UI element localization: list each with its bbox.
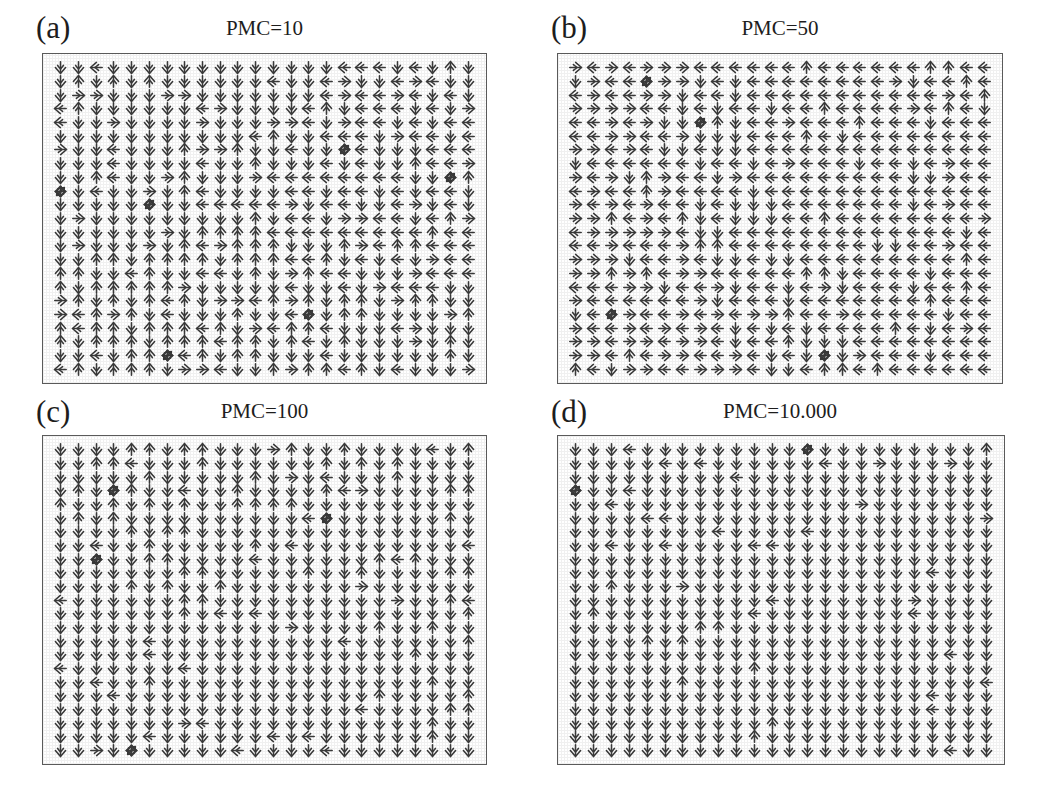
spin-arrow-down <box>780 361 797 378</box>
spin-arrow-down <box>853 742 870 759</box>
spin-arrow-left <box>745 361 762 378</box>
spin-arrow-down <box>442 742 459 759</box>
spin-arrow-up <box>353 361 370 378</box>
spin-arrow-down <box>159 742 176 759</box>
spin-arrow-left <box>905 361 922 378</box>
spin-arrow-down <box>70 742 87 759</box>
spin-arrow-up <box>70 361 87 378</box>
spin-arrow-left <box>798 361 815 378</box>
spin-arrow-left <box>942 742 959 759</box>
spin-arrow-down <box>159 361 176 378</box>
spin-arrow-left <box>887 361 904 378</box>
spin-arrow-down <box>603 361 620 378</box>
spin-arrow-down <box>817 742 834 759</box>
spin-arrow-down <box>371 361 388 378</box>
spin-arrow-left <box>318 742 335 759</box>
panel-d-title: PMC=10.000 <box>557 401 1003 422</box>
panel-b-plot <box>557 53 1003 384</box>
spin-arrow-up <box>318 361 335 378</box>
spin-arrow-down <box>353 742 370 759</box>
spin-arrow-down <box>389 742 406 759</box>
spin-arrow-up <box>567 361 584 378</box>
spin-lattice-a <box>43 54 486 383</box>
spin-arrow-down <box>371 742 388 759</box>
spin-lattice-c <box>43 436 486 764</box>
spin-arrow-down <box>781 742 798 759</box>
spin-arrow-down <box>799 742 816 759</box>
spin-arrow-down <box>746 742 763 759</box>
spin-arrow-down <box>728 742 745 759</box>
panel-c-plot <box>42 435 487 765</box>
spin-arrow-left <box>52 361 69 378</box>
spin-arrow-down <box>978 742 995 759</box>
spin-arrow-down <box>407 742 424 759</box>
spin-arrow-down <box>212 742 229 759</box>
spin-arrow-down <box>52 742 69 759</box>
spin-arrow-right <box>727 361 744 378</box>
spin-arrow-left <box>976 361 993 378</box>
spin-arrow-down <box>336 742 353 759</box>
spin-arrow-left <box>851 361 868 378</box>
spin-arrow-down <box>960 742 977 759</box>
spin-arrow-down <box>657 742 674 759</box>
spin-arrow-right <box>194 361 211 378</box>
spin-arrow-down <box>764 742 781 759</box>
spin-arrow-right <box>88 742 105 759</box>
spin-arrow-left <box>940 361 957 378</box>
panel-a-plot <box>42 53 487 384</box>
spin-arrow-down <box>194 742 211 759</box>
spin-arrow-down <box>247 361 264 378</box>
spin-arrow-down <box>710 742 727 759</box>
spin-arrow-down <box>460 742 477 759</box>
spin-arrow-left <box>958 361 975 378</box>
spin-arrow-down <box>835 742 852 759</box>
spin-arrow-down <box>442 361 459 378</box>
spin-arrow-down <box>603 742 620 759</box>
spin-arrow-down <box>763 361 780 378</box>
panel-b-title: PMC=50 <box>557 18 1003 39</box>
spin-arrow-down <box>424 361 441 378</box>
spin-defect <box>123 742 140 759</box>
spin-arrow-down <box>906 742 923 759</box>
spin-arrow-down <box>888 742 905 759</box>
spin-arrow-down <box>674 742 691 759</box>
spin-arrow-down <box>88 361 105 378</box>
spin-lattice-b <box>558 54 1002 383</box>
spin-arrow-right <box>709 361 726 378</box>
panel-d-plot <box>557 435 1005 765</box>
spin-arrow-down <box>585 742 602 759</box>
spin-arrow-up <box>300 361 317 378</box>
spin-arrow-down <box>105 742 122 759</box>
spin-arrow-down <box>176 742 193 759</box>
spin-arrow-right <box>638 361 655 378</box>
spin-arrow-left <box>656 361 673 378</box>
spin-arrow-up <box>123 361 140 378</box>
spin-arrow-left <box>389 361 406 378</box>
figure-root: (a) PMC=10 (b) PMC=50 (c) PMC=100 (d) PM… <box>0 0 1045 797</box>
spin-arrow-down <box>265 742 282 759</box>
spin-arrow-right <box>283 361 300 378</box>
spin-arrow-up <box>869 361 886 378</box>
spin-arrow-down <box>567 742 584 759</box>
spin-arrow-down <box>283 742 300 759</box>
spin-arrow-down <box>141 742 158 759</box>
spin-arrow-up <box>105 361 122 378</box>
spin-arrow-down <box>924 742 941 759</box>
spin-arrow-down <box>247 742 264 759</box>
spin-arrow-right <box>692 361 709 378</box>
spin-arrow-down <box>871 742 888 759</box>
spin-arrow-left <box>922 361 939 378</box>
spin-lattice-d <box>558 436 1004 764</box>
spin-arrow-down <box>229 361 246 378</box>
spin-arrow-left <box>229 742 246 759</box>
spin-arrow-right <box>621 361 638 378</box>
spin-arrow-down <box>424 742 441 759</box>
spin-arrow-up <box>141 361 158 378</box>
spin-arrow-down <box>407 361 424 378</box>
spin-arrow-down <box>639 742 656 759</box>
spin-arrow-up <box>834 361 851 378</box>
spin-arrow-left <box>212 361 229 378</box>
spin-arrow-up <box>816 361 833 378</box>
spin-arrow-right <box>176 361 193 378</box>
spin-arrow-left <box>674 361 691 378</box>
